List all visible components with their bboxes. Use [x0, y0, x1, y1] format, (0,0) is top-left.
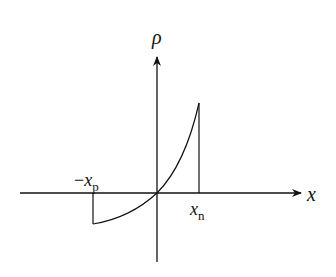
right-marker-label: xn — [189, 199, 205, 223]
left-marker-label: −xp — [74, 170, 99, 194]
y-axis-label: ρ — [151, 26, 162, 49]
density-curve — [93, 103, 199, 224]
charge-density-diagram: ρ x −xp xn — [0, 0, 336, 277]
x-axis-label: x — [306, 183, 316, 205]
